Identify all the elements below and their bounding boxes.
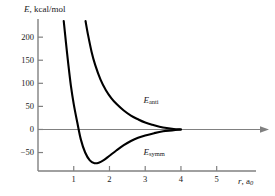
figure-container: E, kcal/mol r, a0 200150100500−50 12345 … — [0, 0, 275, 196]
y-axis-label: E, kcal/mol — [24, 4, 66, 14]
curve-label-E_anti: Eanti — [143, 95, 158, 105]
y-tick-label: 50 — [8, 101, 34, 111]
curve-E_anti — [86, 21, 181, 129]
curve-E_symm — [64, 21, 181, 163]
x-tick-label: 3 — [138, 174, 152, 184]
y-tick-label: 150 — [8, 55, 34, 65]
x-tick-label: 5 — [210, 174, 224, 184]
x-axis-label: r, a0 — [238, 176, 253, 186]
y-tick-label: −50 — [8, 147, 34, 157]
plot-area — [0, 0, 275, 196]
x-axis-label-units: , a — [242, 176, 251, 186]
y-axis-label-units: , kcal/mol — [30, 4, 66, 14]
y-tick-label: 200 — [8, 32, 34, 42]
curves-group — [64, 21, 181, 163]
x-tick-label: 4 — [174, 174, 188, 184]
y-tick-label: 0 — [8, 124, 34, 134]
x-tick-label: 1 — [67, 174, 81, 184]
zero-line-group — [38, 126, 269, 132]
y-tick-label: 100 — [8, 78, 34, 88]
x-axis-label-subscript: 0 — [250, 179, 253, 186]
x-tick-label: 2 — [102, 174, 116, 184]
zero-line-arrowhead — [260, 126, 269, 132]
curve-label-E_symm: Esymm — [143, 147, 164, 157]
curve-label-subscript: symm — [149, 151, 165, 158]
curve-label-subscript: anti — [149, 98, 159, 105]
